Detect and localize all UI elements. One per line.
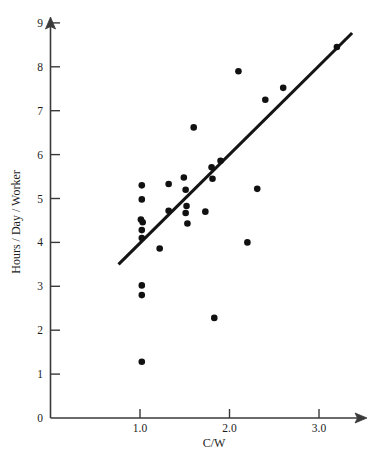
- x-tick-label-3.0: 3.0: [312, 422, 327, 434]
- data-point: [183, 203, 190, 210]
- y-tick-label-6: 6: [37, 149, 43, 161]
- y-tick-label-8: 8: [37, 61, 43, 73]
- data-point: [262, 96, 269, 103]
- data-point: [254, 186, 261, 193]
- x-axis-label: C/W: [203, 436, 226, 450]
- data-point: [138, 282, 145, 289]
- data-point: [184, 220, 191, 227]
- data-point: [138, 182, 145, 189]
- data-point: [165, 207, 172, 214]
- data-point: [181, 174, 188, 181]
- data-point: [244, 239, 251, 246]
- regression-fit-line: [119, 33, 353, 264]
- data-point: [182, 186, 189, 193]
- data-point: [138, 196, 145, 203]
- data-point: [209, 175, 216, 182]
- data-point: [334, 44, 341, 51]
- y-tick-label-4: 4: [37, 236, 43, 248]
- y-tick-label-2: 2: [37, 324, 43, 336]
- data-point: [139, 219, 146, 226]
- data-point: [138, 359, 145, 366]
- data-point: [182, 210, 189, 217]
- data-point: [211, 315, 218, 322]
- y-tick-label-9: 9: [37, 17, 43, 29]
- data-point: [208, 164, 215, 171]
- data-point: [138, 292, 145, 299]
- data-point: [138, 235, 145, 242]
- data-point: [202, 208, 209, 215]
- data-point: [190, 124, 197, 131]
- y-tick-label-3: 3: [37, 280, 43, 292]
- y-tick-label-7: 7: [37, 105, 43, 117]
- data-point: [165, 181, 172, 188]
- data-point: [138, 227, 145, 234]
- plot-canvas: 0123456789 1.02.03.0 Hours / Day / Worke…: [0, 0, 386, 463]
- y-axis-label: Hours / Day / Worker: [9, 170, 23, 273]
- x-axis-ticks: 1.02.03.0: [133, 409, 327, 434]
- y-tick-label-5: 5: [37, 193, 43, 205]
- data-point: [280, 85, 287, 92]
- y-tick-label-0: 0: [37, 412, 43, 424]
- data-point: [156, 245, 163, 252]
- data-point: [217, 157, 224, 164]
- y-axis-ticks: 0123456789: [37, 17, 60, 424]
- scatter-plot-figure: 0123456789 1.02.03.0 Hours / Day / Worke…: [0, 0, 386, 463]
- x-tick-label-1.0: 1.0: [133, 422, 148, 434]
- data-points-group: [138, 44, 341, 365]
- x-tick-label-2.0: 2.0: [222, 422, 237, 434]
- y-tick-label-1: 1: [37, 368, 43, 380]
- data-point: [235, 68, 242, 75]
